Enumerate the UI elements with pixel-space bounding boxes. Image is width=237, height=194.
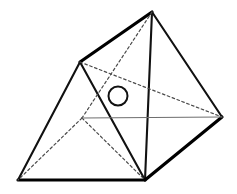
polyhedron-svg	[0, 0, 237, 194]
marked-point-circle	[109, 87, 128, 106]
marker-layer	[109, 87, 128, 106]
polyhedron-figure	[0, 0, 237, 194]
